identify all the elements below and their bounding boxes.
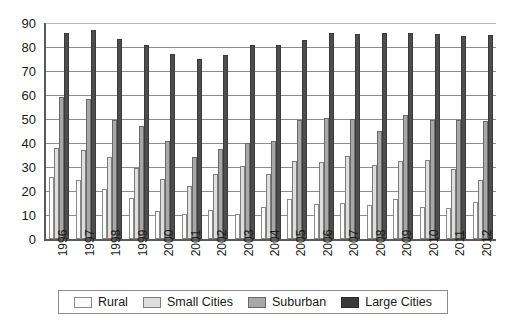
- bar-2003-large-cities[interactable]: [250, 45, 255, 239]
- bar-group-2003: [231, 23, 257, 239]
- bar-2001-large-cities[interactable]: [197, 59, 202, 239]
- x-tick-2012: 2012: [481, 230, 493, 257]
- x-tick-cell-2010: 2010: [415, 241, 441, 289]
- y-tick-0: 0: [29, 233, 36, 246]
- x-tick-1999: 1999: [137, 230, 149, 257]
- bar-group-2004: [258, 23, 284, 239]
- y-tick-90: 90: [22, 17, 36, 30]
- x-tick-cell-2011: 2011: [441, 241, 467, 289]
- bar-group-1996: [46, 23, 72, 239]
- bar-2005-large-cities[interactable]: [302, 40, 307, 239]
- bar-2011-large-cities[interactable]: [461, 36, 466, 239]
- x-tick-1997: 1997: [84, 230, 96, 257]
- bar-group-2007: [337, 23, 363, 239]
- x-tick-2006: 2006: [322, 230, 334, 257]
- bar-group-1997: [72, 23, 98, 239]
- x-tick-1998: 1998: [110, 230, 122, 257]
- x-tick-cell-2003: 2003: [229, 241, 255, 289]
- x-tick-2001: 2001: [190, 230, 202, 257]
- x-tick-2004: 2004: [269, 230, 281, 257]
- x-tick-2005: 2005: [295, 230, 307, 257]
- x-tick-cell-1996: 1996: [44, 241, 70, 289]
- bar-group-2000: [152, 23, 178, 239]
- x-tick-cell-2012: 2012: [468, 241, 494, 289]
- x-tick-2011: 2011: [454, 230, 466, 256]
- bar-group-2012: [470, 23, 496, 239]
- bar-1996-large-cities[interactable]: [64, 33, 69, 239]
- y-tick-20: 20: [22, 185, 36, 198]
- legend-label-small: Small Cities: [167, 296, 233, 309]
- bar-2009-large-cities[interactable]: [408, 33, 413, 239]
- bar-2000-large-cities[interactable]: [170, 54, 175, 239]
- x-tick-2009: 2009: [401, 230, 413, 257]
- x-tick-1996: 1996: [57, 230, 69, 257]
- bar-group-2011: [443, 23, 469, 239]
- x-tick-cell-1997: 1997: [70, 241, 96, 289]
- y-tick-40: 40: [22, 137, 36, 150]
- legend-label-suburban: Suburban: [272, 296, 326, 309]
- plot-wrapper: 9080706050403020100 19961997199819992000…: [0, 0, 505, 250]
- bar-2004-large-cities[interactable]: [276, 45, 281, 239]
- x-tick-cell-2009: 2009: [388, 241, 414, 289]
- bar-group-1999: [125, 23, 151, 239]
- legend-item-rural[interactable]: Rural: [74, 296, 128, 309]
- legend-swatch-small: [143, 297, 161, 308]
- x-tick-cell-2008: 2008: [362, 241, 388, 289]
- bar-2008-large-cities[interactable]: [382, 33, 387, 239]
- bar-2002-large-cities[interactable]: [223, 55, 228, 239]
- x-tick-2000: 2000: [163, 230, 175, 257]
- y-axis-tick-labels: 9080706050403020100: [0, 0, 42, 250]
- bar-group-2010: [417, 23, 443, 239]
- bar-group-2008: [364, 23, 390, 239]
- x-tick-cell-2002: 2002: [203, 241, 229, 289]
- bar-group-2009: [390, 23, 416, 239]
- x-tick-2003: 2003: [243, 230, 255, 257]
- x-tick-cell-2004: 2004: [256, 241, 282, 289]
- y-tick-60: 60: [22, 89, 36, 102]
- bar-2007-large-cities[interactable]: [355, 34, 360, 239]
- bar-group-1998: [99, 23, 125, 239]
- y-tick-10: 10: [22, 209, 36, 222]
- x-tick-2002: 2002: [216, 230, 228, 257]
- y-tick-50: 50: [22, 113, 36, 126]
- x-tick-cell-2006: 2006: [309, 241, 335, 289]
- y-tick-30: 30: [22, 161, 36, 174]
- chart-legend: RuralSmall CitiesSuburbanLarge Cities: [58, 290, 448, 314]
- bar-group-2006: [311, 23, 337, 239]
- y-tick-80: 80: [22, 41, 36, 54]
- bar-2010-large-cities[interactable]: [435, 34, 440, 239]
- x-tick-cell-2005: 2005: [282, 241, 308, 289]
- legend-item-suburban[interactable]: Suburban: [248, 296, 326, 309]
- x-axis-tick-labels: 1996199719981999200020012002200320042005…: [44, 241, 494, 289]
- x-tick-cell-1999: 1999: [123, 241, 149, 289]
- y-tick-70: 70: [22, 65, 36, 78]
- legend-swatch-suburban: [248, 297, 266, 308]
- legend-label-rural: Rural: [98, 296, 128, 309]
- legend-swatch-large: [341, 297, 359, 308]
- x-tick-2010: 2010: [428, 230, 440, 257]
- legend-label-large: Large Cities: [365, 296, 432, 309]
- legend-swatch-rural: [74, 297, 92, 308]
- legend-item-small[interactable]: Small Cities: [143, 296, 233, 309]
- plot-area: [44, 23, 496, 241]
- x-tick-cell-2001: 2001: [176, 241, 202, 289]
- bar-groups: [46, 23, 496, 239]
- x-tick-2007: 2007: [348, 230, 360, 257]
- x-tick-cell-2007: 2007: [335, 241, 361, 289]
- bar-2006-large-cities[interactable]: [329, 33, 334, 239]
- x-tick-2008: 2008: [375, 230, 387, 257]
- bar-1999-large-cities[interactable]: [144, 45, 149, 239]
- bar-group-2001: [178, 23, 204, 239]
- bar-2012-large-cities[interactable]: [488, 35, 493, 239]
- bar-group-2002: [205, 23, 231, 239]
- x-tick-cell-1998: 1998: [97, 241, 123, 289]
- legend-item-large[interactable]: Large Cities: [341, 296, 432, 309]
- bar-chart: 9080706050403020100 19961997199819992000…: [0, 0, 505, 326]
- bar-group-2005: [284, 23, 310, 239]
- bar-1997-large-cities[interactable]: [91, 30, 96, 239]
- x-tick-cell-2000: 2000: [150, 241, 176, 289]
- bar-1998-large-cities[interactable]: [117, 39, 122, 239]
